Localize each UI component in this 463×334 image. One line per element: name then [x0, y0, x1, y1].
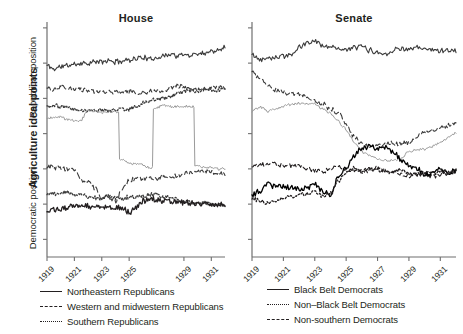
series-group-house: [47, 45, 225, 214]
panel-title-house: House: [47, 12, 225, 24]
series-line-black-belt-democrats: [47, 197, 225, 215]
y-axis-sublabel-republican: Republican position: [27, 23, 38, 133]
series-line-northeastern-republicans: [252, 39, 456, 61]
series-group-senate: [252, 39, 456, 204]
legend-label: Western and midwestern Republicans: [67, 301, 223, 312]
legend-democrats: Black Belt DemocratsNon–Black Belt Democ…: [267, 282, 405, 327]
series-line-unlabeled-gray-series: [47, 105, 225, 171]
legend-item: Western and midwestern Republicans: [40, 299, 223, 314]
panel-title-senate: Senate: [252, 12, 456, 24]
legend-item: Southern Republicans: [40, 314, 223, 329]
legend-item: Northeastern Republicans: [40, 284, 223, 299]
legend-republicans: Northeastern RepublicansWestern and midw…: [40, 284, 223, 329]
legend-item: Non-southern Democrats: [267, 312, 405, 327]
legend-line-swatch-dashed: [267, 315, 289, 325]
series-line-non-black-belt-democrats: [47, 191, 225, 207]
legend-line-swatch-dotted: [267, 300, 289, 310]
series-line-western-and-midwestern-republicans: [252, 71, 456, 148]
legend-item: Black Belt Democrats: [267, 282, 405, 297]
series-line-northeastern-republicans: [47, 45, 225, 71]
series-line-southern-republicans: [47, 88, 225, 112]
y-axis-sublabel-democratic: Democratic position: [27, 154, 38, 264]
figure-root: Agriculture ideal points Republican posi…: [0, 0, 463, 334]
legend-line-swatch-solid: [267, 285, 289, 295]
legend-line-swatch-dotted: [40, 317, 62, 327]
legend-line-swatch-dashed: [40, 302, 62, 312]
legend-label: Non–Black Belt Democrats: [294, 299, 405, 310]
legend-label: Southern Republicans: [67, 316, 158, 327]
legend-label: Northeastern Republicans: [67, 286, 174, 297]
legend-item: Non–Black Belt Democrats: [267, 297, 405, 312]
legend-line-swatch-solid: [40, 287, 62, 297]
legend-label: Black Belt Democrats: [294, 284, 383, 295]
legend-label: Non-southern Democrats: [294, 314, 398, 325]
series-line-unlabeled-gray-series: [252, 102, 456, 161]
